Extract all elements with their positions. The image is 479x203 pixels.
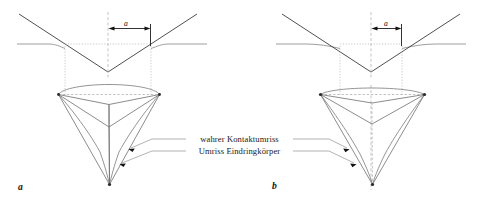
panel-a: a a xyxy=(17,12,207,192)
callout-true-contact-label: wahrer Kontaktumriss xyxy=(200,134,279,144)
dimension-arrow-right-a xyxy=(145,26,151,30)
leader-indenter-outline-right xyxy=(293,151,354,163)
pyramid-edge-left-b xyxy=(321,95,373,185)
panel-label-b: b xyxy=(272,180,277,191)
vertex-apex-a xyxy=(108,183,111,186)
dimension-arrow-left-b xyxy=(372,26,378,30)
surface-line-a xyxy=(17,44,207,49)
panel-b: a b xyxy=(272,12,466,191)
dimension-arrow-left-a xyxy=(109,26,115,30)
pyramid-rim-a xyxy=(59,95,160,105)
vertex-right-b xyxy=(423,93,426,96)
vertex-left-a xyxy=(57,93,60,96)
pyramid-inner-edge-b xyxy=(372,124,373,185)
pyramid-edge-left-a xyxy=(59,95,110,185)
leader-true-contact-left xyxy=(131,139,186,148)
dimension-arrow-right-b xyxy=(396,26,402,30)
figure-root: a a wahrer Kontaktumriss Umriss Eindring… xyxy=(0,0,479,203)
pyramid-rim-b xyxy=(321,95,425,104)
pyramid-edge-right-a xyxy=(110,95,160,185)
leader-arrow-true-contact-right xyxy=(343,148,349,152)
pyramid-inner-edge-a xyxy=(109,127,110,185)
panel-label-a: a xyxy=(18,181,23,192)
leader-indenter-outline-left xyxy=(122,151,186,163)
pyramid-edge-right-b xyxy=(373,95,425,185)
vertex-left-b xyxy=(319,93,322,96)
true-contact-outline-b xyxy=(321,88,425,185)
dimension-label-a: a xyxy=(124,19,128,28)
vertex-right-a xyxy=(158,93,161,96)
vertex-apex-b xyxy=(371,183,374,186)
leader-arrow-indenter-outline-right xyxy=(350,163,356,167)
callout-indenter-outline-label: Umriss Eindringkörper xyxy=(199,146,281,156)
dimension-label-b: a xyxy=(384,19,388,28)
callout-group: wahrer Kontaktumriss Umriss Eindringkörp… xyxy=(119,134,356,167)
indentation-diagram: a a wahrer Kontaktumriss Umriss Eindring… xyxy=(0,0,479,203)
leader-true-contact-right xyxy=(293,139,347,148)
